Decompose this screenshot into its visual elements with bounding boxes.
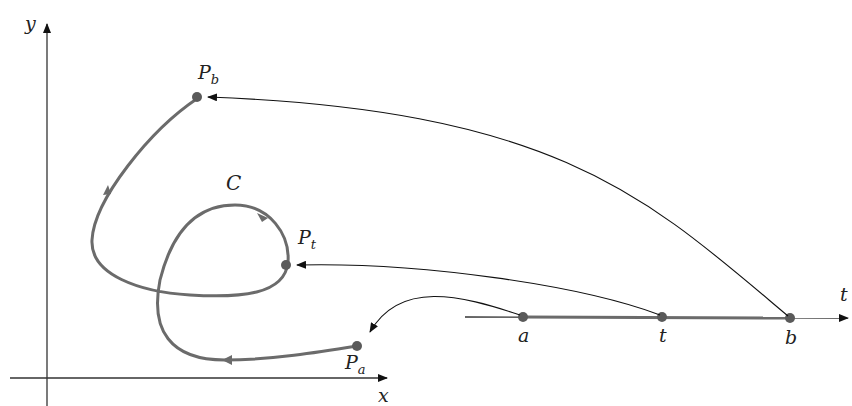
curve-points: Pa Pt Pb	[192, 61, 366, 377]
t-axis-label: t	[840, 283, 848, 305]
t-axis-group: t a t b	[465, 283, 848, 348]
label-a: a	[518, 324, 529, 346]
curve-arrow-bottom	[222, 355, 232, 365]
point-t	[657, 312, 667, 322]
point-pt	[281, 260, 291, 270]
point-pb	[192, 92, 202, 102]
label-b: b	[785, 326, 797, 348]
curve-c: C	[92, 98, 357, 365]
x-axis-label: x	[378, 384, 389, 406]
arrow-b-to-pb	[208, 97, 788, 316]
mapping-arrows	[208, 97, 788, 332]
y-axis-label: y	[24, 12, 36, 34]
label-pa: Pa	[344, 351, 366, 377]
label-pb: Pb	[197, 61, 219, 87]
arrow-a-to-pa	[370, 296, 520, 332]
parametric-curve-diagram: y x C Pa Pt Pb t a t b	[0, 0, 852, 406]
label-pt: Pt	[297, 226, 317, 252]
point-pa	[352, 341, 362, 351]
curve-label: C	[226, 171, 241, 195]
label-t: t	[659, 324, 667, 346]
point-a	[518, 312, 528, 322]
interval-ab	[523, 317, 790, 318]
arrow-t-to-pt	[297, 265, 660, 315]
